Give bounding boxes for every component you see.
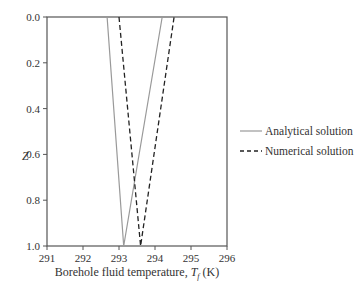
x-tick-label: 294 (147, 252, 164, 264)
x-axis-label: Borehole fluid temperature, Tf (K) (55, 265, 220, 281)
x-tick-label: 295 (183, 252, 200, 264)
y-tick-label: 1.0 (26, 240, 40, 252)
legend: Analytical solution Numerical solution (240, 125, 354, 157)
x-axis: 291292293294295296 (39, 246, 236, 264)
y-axis-label: Z (22, 149, 29, 163)
legend-analytical-label: Analytical solution (265, 125, 353, 138)
legend-numerical-label: Numerical solution (265, 145, 354, 157)
y-tick-label: 0.2 (26, 57, 40, 69)
y-tick-label: 0.4 (26, 103, 40, 115)
y-tick-label: 0.0 (26, 11, 40, 23)
plot-area (47, 17, 227, 246)
chart: 291292293294295296 0.00.20.40.60.81.0 Z … (0, 0, 357, 293)
x-tick-label: 292 (75, 252, 92, 264)
series-numerical (119, 17, 174, 246)
y-axis: 0.00.20.40.60.81.0 (26, 11, 47, 252)
x-tick-label: 291 (39, 252, 56, 264)
series-analytical (107, 17, 162, 246)
x-tick-label: 296 (219, 252, 236, 264)
x-tick-label: 293 (111, 252, 128, 264)
y-tick-label: 0.8 (26, 194, 40, 206)
